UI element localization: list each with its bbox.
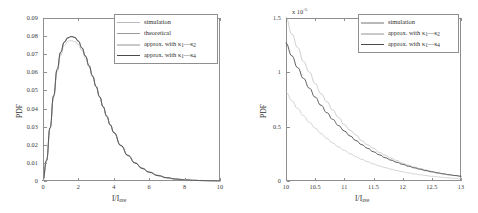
y-tick-mark xyxy=(44,127,47,128)
y-tick-label: 0.02 xyxy=(12,142,38,148)
x-axis-label-left-sub: ave xyxy=(119,197,126,203)
y-tick-label: 0.08 xyxy=(12,33,38,39)
legend-label-approx-k1-k4-right: approx. with κ1—κ4 xyxy=(388,41,440,49)
y-tick-label: 0.09 xyxy=(12,15,38,21)
y-tick-label: 0.06 xyxy=(12,69,38,75)
x-tick-mark xyxy=(374,178,375,181)
x-tick-mark xyxy=(432,178,433,181)
x-tick-label: 0 xyxy=(29,184,57,190)
y-tick-label: 0.05 xyxy=(12,87,38,93)
legend-approx-prefix-3: approx. with xyxy=(388,29,422,36)
x-axis-label-right: I/Iave xyxy=(355,195,369,204)
x-tick-mark xyxy=(315,178,316,181)
x-axis-label-right-sub: ave xyxy=(362,197,369,203)
x-tick-mark-top xyxy=(78,18,79,21)
legend-label-simulation: simulation xyxy=(144,19,171,25)
y-tick-label: 0 xyxy=(255,178,281,184)
legend-swatch-approx-k1-k4-right xyxy=(361,44,384,45)
legend-item-theoretical[interactable]: theoretical xyxy=(117,28,214,39)
y-tick-mark xyxy=(287,127,290,128)
y-tick-label: 0.01 xyxy=(12,160,38,166)
y-axis-exponent-right: x 10-5 xyxy=(292,7,307,15)
legend-swatch-approx-k1-k4 xyxy=(117,55,140,56)
legend-label-simulation-right: simulation xyxy=(388,19,415,25)
y-axis-label-left: PDF xyxy=(16,104,24,118)
y-tick-label: 0.5 xyxy=(255,124,281,130)
y-tick-mark xyxy=(44,181,47,182)
y-tick-label: 0 xyxy=(12,178,38,184)
x-tick-mark xyxy=(185,178,186,181)
x-tick-label: 12 xyxy=(389,184,417,190)
legend-item-approx-k1-k2-right[interactable]: approx. with κ1—κ2 xyxy=(361,28,455,39)
legend-approx-prefix-4: approx. with xyxy=(388,40,422,47)
y-tick-label: 1.5 xyxy=(255,15,281,21)
legend-label-approx-k1-k4: approx. with κ1—κ4 xyxy=(144,52,196,60)
x-tick-mark xyxy=(344,178,345,181)
legend-swatch-approx-k1-k2 xyxy=(117,44,140,46)
chart-panel-left: 024681000.010.020.030.040.050.060.070.08… xyxy=(0,0,239,213)
legend-swatch-simulation xyxy=(117,22,140,23)
legend-item-simulation[interactable]: simulation xyxy=(117,17,214,28)
y-tick-mark xyxy=(44,90,47,91)
x-tick-mark-top xyxy=(461,18,462,21)
x-tick-label: 13 xyxy=(447,184,475,190)
legend-item-approx-k1-k2[interactable]: approx. with κ1—κ2 xyxy=(117,39,214,50)
y-tick-mark xyxy=(287,181,290,182)
legend-swatch-theoretical xyxy=(117,33,140,34)
kappa-sub-d2: 4 xyxy=(437,42,440,48)
kappa-sub-a2: 2 xyxy=(193,42,196,48)
x-tick-label: 10 xyxy=(272,184,300,190)
legend-item-approx-k1-k4[interactable]: approx. with κ1—κ4 xyxy=(117,50,214,61)
x-tick-mark-top xyxy=(220,18,221,21)
x-tick-label: 10.5 xyxy=(301,184,329,190)
y-axis-label-right-text: PDF xyxy=(259,104,268,118)
y-tick-mark xyxy=(44,109,47,110)
y-tick-label: 0.03 xyxy=(12,124,38,130)
y-tick-label: 1 xyxy=(255,69,281,75)
kappa-sub-b2: 4 xyxy=(193,53,196,59)
legend-label-approx-k1-k2-right: approx. with κ1—κ2 xyxy=(388,30,440,38)
legend-swatch-approx-k1-k2-right xyxy=(361,33,384,35)
x-tick-mark xyxy=(220,178,221,181)
legend-label-theoretical: theoretical xyxy=(144,30,171,36)
kappa-sub-c2: 2 xyxy=(437,31,440,37)
y-tick-mark xyxy=(44,18,47,19)
x-tick-mark-top xyxy=(344,18,345,21)
legend-approx-prefix-2: approx. with xyxy=(144,51,178,58)
x-tick-label: 4 xyxy=(100,184,128,190)
y-axis-exponent-power: -5 xyxy=(303,7,307,12)
x-tick-label: 6 xyxy=(135,184,163,190)
x-tick-label: 12.5 xyxy=(418,184,446,190)
series-line xyxy=(286,43,461,176)
x-tick-label: 8 xyxy=(171,184,199,190)
x-tick-mark xyxy=(461,178,462,181)
legend-left: simulation theoretical approx. with κ1—κ… xyxy=(114,14,218,64)
y-axis-label-right: PDF xyxy=(260,104,268,118)
x-tick-mark xyxy=(403,178,404,181)
legend-label-approx-k1-k2: approx. with κ1—κ2 xyxy=(144,41,196,49)
chart-panel-right: 1010.51111.51212.51300.511.5 x 10-5 PDF … xyxy=(239,0,478,213)
legend-right: simulation approx. with κ1—κ2 approx. wi… xyxy=(358,14,459,53)
x-axis-label-left: I/Iave xyxy=(112,195,126,204)
y-axis-exponent-prefix: x 10 xyxy=(292,8,303,15)
legend-swatch-simulation-right xyxy=(361,22,384,24)
y-axis-label-left-text: PDF xyxy=(15,104,24,118)
x-tick-mark-top xyxy=(315,18,316,21)
series-line xyxy=(286,92,461,179)
y-tick-mark xyxy=(44,145,47,146)
y-tick-mark xyxy=(44,163,47,164)
legend-approx-prefix-1: approx. with xyxy=(144,40,178,47)
x-tick-label: 10 xyxy=(206,184,234,190)
x-tick-mark xyxy=(78,178,79,181)
legend-item-simulation-right[interactable]: simulation xyxy=(361,17,455,28)
x-tick-mark xyxy=(149,178,150,181)
y-tick-mark xyxy=(44,54,47,55)
legend-item-approx-k1-k4-right[interactable]: approx. with κ1—κ4 xyxy=(361,39,455,50)
x-tick-label: 11.5 xyxy=(360,184,388,190)
y-tick-label: 0.07 xyxy=(12,51,38,57)
y-tick-mark xyxy=(44,72,47,73)
x-tick-label: 11 xyxy=(330,184,358,190)
figure-two-panel-pdf-plots: 024681000.010.020.030.040.050.060.070.08… xyxy=(0,0,478,213)
x-tick-label: 2 xyxy=(64,184,92,190)
y-tick-mark xyxy=(287,18,290,19)
